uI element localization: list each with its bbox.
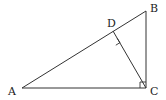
label-d: D bbox=[107, 17, 116, 30]
label-b: B bbox=[150, 2, 158, 15]
label-c: C bbox=[150, 85, 158, 98]
right-angle-mark-d bbox=[116, 38, 120, 45]
label-a: A bbox=[7, 85, 17, 98]
segment-ab bbox=[22, 11, 146, 88]
triangle-diagram: A B C D bbox=[0, 0, 166, 100]
